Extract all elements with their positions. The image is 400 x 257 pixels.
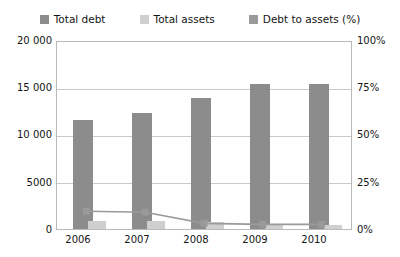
y-axis-tick-10000: 10 000 xyxy=(2,130,52,140)
x-axis-tick-2009: 2009 xyxy=(225,234,285,245)
legend-label-total-debt: Total debt xyxy=(54,13,106,25)
line-marker-2008 xyxy=(201,220,208,227)
plot-area xyxy=(56,41,352,230)
legend-item-total-debt[interactable]: Total debt xyxy=(40,13,106,25)
line-series-debt-to-assets xyxy=(57,42,351,229)
legend-swatch-total-assets xyxy=(140,15,149,24)
y-axis-tick-20000: 20 000 xyxy=(2,36,52,46)
line-marker-2007 xyxy=(142,209,149,216)
y-axis-tick-5000: 5000 xyxy=(2,178,52,188)
line-marker-2006 xyxy=(83,208,90,215)
y-axis-tick-15000: 15 000 xyxy=(2,83,52,93)
x-axis-tick-2007: 2007 xyxy=(107,234,167,245)
chart-legend: Total debt Total assets Debt to assets (… xyxy=(0,10,400,28)
x-axis-tick-2006: 2006 xyxy=(48,234,108,245)
x-axis-tick-2010: 2010 xyxy=(284,234,344,245)
line-marker-2010 xyxy=(318,221,325,228)
legend-label-debt-to-assets: Debt to assets (%) xyxy=(263,13,360,25)
x-axis-tick-2008: 2008 xyxy=(166,234,226,245)
legend-swatch-debt-to-assets xyxy=(249,15,258,24)
line-marker-2009 xyxy=(259,221,266,228)
legend-item-total-assets[interactable]: Total assets xyxy=(140,13,215,25)
legend-label-total-assets: Total assets xyxy=(154,13,215,25)
legend-swatch-total-debt xyxy=(40,15,49,24)
chart-container: Total debt Total assets Debt to assets (… xyxy=(0,0,400,257)
y-axis-tick-0: 0 xyxy=(2,225,52,235)
legend-item-debt-to-assets[interactable]: Debt to assets (%) xyxy=(249,13,360,25)
